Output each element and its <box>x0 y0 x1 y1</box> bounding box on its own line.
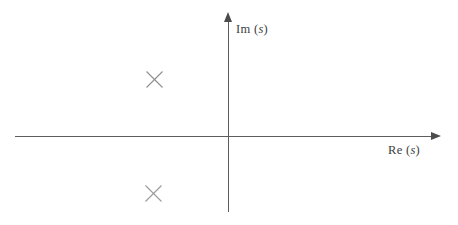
imaginary-axis-label: Im (s) <box>236 23 268 36</box>
imaginary-axis-arrow-icon <box>224 12 232 22</box>
pole-marker-lower-icon <box>144 184 163 203</box>
imaginary-axis-label-prefix: Im ( <box>236 22 258 36</box>
real-axis-label: Re (s) <box>388 144 420 157</box>
real-axis-arrow-icon <box>431 132 441 140</box>
real-axis-label-prefix: Re ( <box>388 143 410 157</box>
real-axis-line <box>15 136 436 137</box>
imaginary-axis-line <box>228 16 229 212</box>
s-plane-diagram: Re (s) Im (s) <box>0 0 458 225</box>
pole-marker-upper-icon <box>145 70 164 89</box>
real-axis-label-suffix: ) <box>416 143 420 157</box>
imaginary-axis-label-suffix: ) <box>264 22 268 36</box>
